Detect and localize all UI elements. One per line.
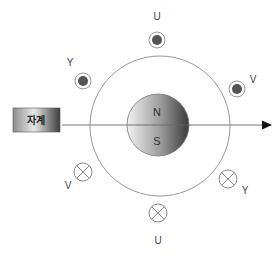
field-box: 자계 bbox=[13, 108, 60, 132]
conductor-label: Y bbox=[67, 57, 74, 68]
conductor-label: V bbox=[65, 180, 72, 191]
conductor-label: U bbox=[154, 235, 161, 246]
arrow-head-icon bbox=[262, 121, 272, 130]
conductor-u-bottom: U bbox=[149, 204, 167, 246]
conductor-label: U bbox=[153, 11, 160, 22]
conductor-y-upper-left: Y bbox=[67, 57, 91, 89]
south-pole-label: S bbox=[153, 135, 160, 147]
conductor-label: V bbox=[250, 74, 257, 85]
conductor-v-lower-left: V bbox=[65, 163, 92, 191]
conductor-u-top: U bbox=[149, 11, 165, 48]
conductor-y-lower-right: Y bbox=[219, 170, 249, 196]
north-pole-label: N bbox=[153, 106, 161, 118]
diagram-canvas: N S 자계 U Y V V Y bbox=[0, 0, 279, 256]
conductor-label: Y bbox=[242, 185, 249, 196]
field-box-label: 자계 bbox=[27, 114, 45, 126]
conductor-v-upper-right: V bbox=[229, 74, 257, 97]
